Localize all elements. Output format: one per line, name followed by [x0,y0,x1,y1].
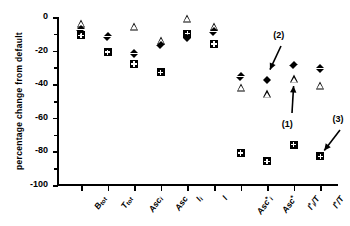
x-label-Asc_i: Asci [147,194,165,214]
x-label-Asc: Asc [172,194,189,213]
x-label-I*_i/T: I*i/T [305,194,321,212]
y-tick-label-40: -40 [35,78,48,88]
x-label-I: I [220,194,230,202]
annotation-arrow-2 [259,38,289,84]
x-tick-T_tot [108,185,110,191]
x-label-Asc*_i: Asc*i [254,194,274,216]
x-tick-Asc_i [134,185,136,191]
marker-square-Asc*_i [237,149,245,157]
marker-diamond-B_tot [77,21,85,29]
annotation-label-1: (1) [282,119,293,129]
marker-square-I*_i/T [290,141,298,149]
marker-square-I [210,40,218,48]
y-tick-80: -80 [53,151,58,153]
marker-triangle-Asc* [263,90,271,98]
marker-diamond-Asc*_i [237,68,245,76]
marker-diamond-I_i [183,30,191,38]
y-tick-40: -40 [53,84,58,86]
y-tick-minor-70 [54,135,58,137]
scatter-chart-figure: percentage change from default 0 -20 -40… [0,0,350,226]
x-tick-I*_i/T [294,185,296,191]
x-tick-Asc [161,185,163,191]
y-tick-60: -60 [53,118,58,120]
x-label-I_i: Ii [194,194,205,203]
y-tick-minor-10 [54,34,58,36]
y-tick-label-0: 0 [43,11,48,21]
marker-diamond-Asc_i [130,45,138,53]
x-tick-Asc* [267,185,269,191]
y-tick-minor-50 [54,101,58,103]
x-tick-I [214,185,216,191]
annotation-label-2: (2) [273,30,284,40]
y-tick-label-100: -100 [30,179,48,189]
marker-square-Asc [157,68,165,76]
x-tick-I_i [187,185,189,191]
y-tick-minor-90 [54,168,58,170]
y-tick-100: -100 [53,185,58,187]
y-tick-0: 0 [53,17,58,19]
y-axis-title: percentage change from default [14,11,24,191]
annotation-arrow-3 [312,122,348,164]
plot-area: 0 -20 -40 -60 -80 -100 BtotTtotAsciAscIi… [57,17,337,185]
y-tick-20: -20 [53,51,58,53]
marker-square-T_tot [104,48,112,56]
marker-triangle-I_i [183,14,191,22]
x-axis-line [57,184,338,186]
marker-diamond-I [210,23,218,31]
marker-diamond-I*/T [316,60,324,68]
y-tick-label-20: -20 [35,45,48,55]
marker-diamond-I*_i/T [290,57,298,65]
x-label-T_tot: Ttot [118,194,134,210]
marker-square-Asc* [263,157,271,165]
annotation-label-3: (3) [332,114,343,124]
x-tick-I*/T [320,185,322,191]
y-tick-label-80: -80 [35,145,48,155]
x-label-I*/T: I*/T [331,194,346,210]
x-label-Asc*: Asc* [280,194,299,215]
x-label-B_tot: Btot [92,194,108,211]
x-tick-Asc*_i [241,185,243,191]
y-tick-label-60: -60 [35,112,48,122]
y-tick-minor-30 [54,67,58,69]
marker-diamond-Asc [157,37,165,45]
marker-diamond-T_tot [104,28,112,36]
marker-triangle-I*/T [316,81,324,89]
marker-triangle-Asc_i [130,23,138,31]
x-tick-B_tot [81,185,83,191]
